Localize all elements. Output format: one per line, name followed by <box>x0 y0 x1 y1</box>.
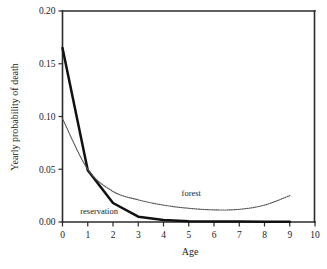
y-tick-label: 0.05 <box>39 165 56 175</box>
x-tick-label: 10 <box>310 230 320 240</box>
chart-background <box>0 0 327 269</box>
series-annotation-forest: forest <box>182 188 202 198</box>
x-tick-label: 0 <box>60 230 65 240</box>
x-tick-label: 4 <box>161 230 166 240</box>
y-tick-label: 0.20 <box>39 6 56 16</box>
x-tick-label: 6 <box>212 230 217 240</box>
chart-figure: 0.000.050.100.150.20 012345678910 reserv… <box>0 0 327 269</box>
x-tick-label: 9 <box>287 230 292 240</box>
y-axis-title: Yearly probability of death <box>9 63 20 171</box>
x-tick-label: 2 <box>111 230 116 240</box>
x-tick-label: 3 <box>136 230 141 240</box>
y-tick-label: 0.15 <box>39 59 56 69</box>
x-tick-label: 7 <box>237 230 242 240</box>
x-tick-label: 5 <box>186 230 191 240</box>
x-axis-title: Age <box>182 246 199 257</box>
y-tick-label: 0.00 <box>39 217 56 227</box>
x-tick-label: 1 <box>85 230 90 240</box>
y-tick-label: 0.10 <box>39 112 56 122</box>
x-tick-label: 8 <box>262 230 267 240</box>
mortality-line-chart: 0.000.050.100.150.20 012345678910 reserv… <box>0 0 327 269</box>
series-annotation-reservation: reservation <box>80 206 119 216</box>
